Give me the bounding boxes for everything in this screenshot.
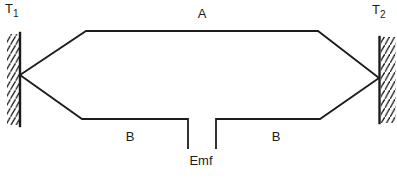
t2-subscript: 2	[380, 9, 386, 20]
wire-b-right	[216, 78, 379, 148]
wire-b-left-label: B	[126, 130, 135, 144]
t2-symbol: T	[372, 2, 380, 17]
wire-a-label: A	[198, 7, 207, 21]
thermocouple-circuit-diagram: T1 T2 A B B Emf	[0, 0, 397, 181]
wire-b-right-label: B	[272, 130, 281, 144]
t1-subscript: 1	[13, 8, 19, 19]
wire-b-left	[20, 75, 188, 148]
left-wall-hatch	[7, 34, 20, 125]
emf-label: Emf	[189, 154, 212, 168]
wire-a	[20, 31, 379, 78]
right-wall-hatch	[381, 37, 396, 123]
junction-temperature-label-t1: T1	[5, 2, 19, 19]
junction-temperature-label-t2: T2	[372, 3, 386, 20]
t1-symbol: T	[5, 1, 13, 16]
